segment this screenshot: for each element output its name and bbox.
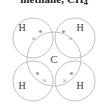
methane-lewis-structure-figure: methane, CH4 C H H H H • × • × • × • × [0,0,108,110]
bonding-cross-bottom-left: × [40,77,49,85]
bonding-cross-bottom-right: × [60,77,69,85]
carbon-atom-label: C [48,54,60,65]
hydrogen-atom-label-bottom-right: H [74,81,86,91]
hydrogen-atom-label-top-right: H [74,23,86,33]
bonding-cross-top-right: × [66,35,75,43]
hydrogen-atom-label-bottom-left: H [16,81,28,91]
hydrogen-atom-label-top-left: H [16,23,28,33]
bonding-cross-top-left: × [29,35,38,43]
